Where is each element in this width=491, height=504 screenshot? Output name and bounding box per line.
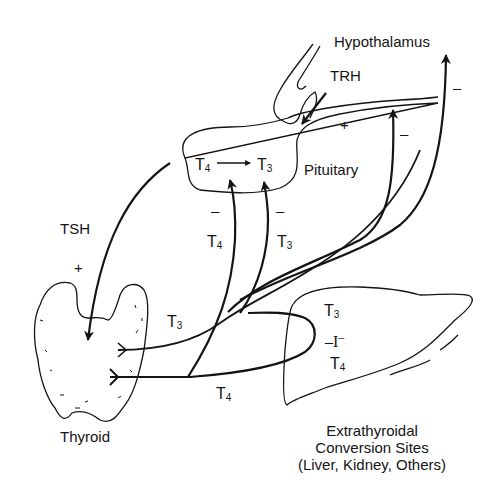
feedback-arrow-inner: [228, 110, 393, 312]
hypothalamus-label: Hypothalamus: [334, 33, 430, 50]
liver-t4: T4: [330, 355, 345, 377]
extrathyroidal-label-line1: Extrathyroidal: [262, 422, 482, 439]
pituitary-t4: T4: [195, 156, 210, 178]
feedback-minus-inner: –: [400, 126, 408, 141]
t4-minus-sign: –: [211, 203, 219, 218]
trh-plus-sign: +: [340, 117, 349, 132]
thyroid-gland-outline: [34, 282, 147, 421]
extrathyroidal-label-line2: Conversion Sites: [262, 439, 482, 456]
pituitary-label: Pituitary: [304, 161, 358, 178]
t3-from-thyroid-label: T3: [167, 313, 182, 335]
tsh-plus-sign: +: [74, 260, 83, 275]
extrathyroidal-label-line3: (Liver, Kidney, Others): [262, 456, 482, 473]
pituitary-t3: T3: [257, 156, 272, 178]
t3-minus-sign: –: [276, 203, 284, 218]
t4-from-thyroid-label: T4: [216, 385, 231, 407]
liver-iodide: –I–: [325, 328, 344, 351]
t3-pathway: [118, 150, 420, 357]
t4-to-pituitary-label: T4: [207, 233, 222, 255]
extrathyroidal-label: Extrathyroidal Conversion Sites (Liver, …: [262, 422, 482, 473]
tsh-arrow: [88, 163, 170, 340]
feedback-minus-outer: –: [453, 80, 461, 95]
tsh-label: TSH: [60, 220, 90, 237]
liver-t3: T3: [324, 302, 339, 324]
trh-label: TRH: [330, 67, 361, 84]
t3-to-pituitary-label: T3: [277, 233, 292, 255]
thyroid-label: Thyroid: [60, 428, 110, 445]
